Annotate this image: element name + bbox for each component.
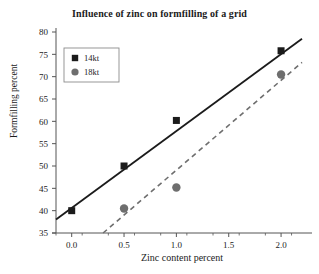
regression-line-18kt bbox=[103, 62, 302, 233]
x-tick-label: 1.0 bbox=[171, 240, 183, 250]
y-tick-label: 75 bbox=[39, 50, 49, 60]
chart-container: Influence of zinc on formfilling of a gr… bbox=[0, 0, 319, 274]
y-tick-label: 70 bbox=[39, 72, 49, 82]
x-tick-label: 0.0 bbox=[66, 240, 78, 250]
data-point-18kt bbox=[277, 70, 285, 78]
x-tick-label: 2.0 bbox=[275, 240, 287, 250]
data-point-18kt bbox=[120, 204, 128, 212]
x-tick-label: 1.5 bbox=[223, 240, 235, 250]
chart-legend: 14kt18kt bbox=[64, 48, 119, 82]
y-tick-label: 60 bbox=[39, 117, 49, 127]
legend-marker-18kt bbox=[71, 68, 78, 75]
legend-marker-14kt bbox=[72, 55, 78, 61]
y-tick-label: 80 bbox=[39, 27, 49, 37]
legend-label-18kt: 18kt bbox=[84, 67, 100, 77]
data-point-18kt bbox=[172, 183, 180, 191]
y-tick-label: 35 bbox=[39, 228, 49, 238]
y-tick-label: 65 bbox=[39, 94, 49, 104]
x-tick-label: 0.5 bbox=[118, 240, 130, 250]
legend-label-14kt: 14kt bbox=[84, 53, 100, 63]
plot-area: 354045505560657075800.00.51.01.52.0 14kt… bbox=[0, 0, 319, 274]
data-point-14kt bbox=[68, 207, 75, 214]
data-point-14kt bbox=[121, 163, 128, 170]
y-tick-label: 50 bbox=[39, 161, 49, 171]
y-tick-label: 45 bbox=[39, 184, 49, 194]
y-tick-label: 40 bbox=[39, 206, 49, 216]
data-point-14kt bbox=[278, 47, 285, 54]
y-tick-label: 55 bbox=[39, 139, 49, 149]
data-point-14kt bbox=[173, 117, 180, 124]
